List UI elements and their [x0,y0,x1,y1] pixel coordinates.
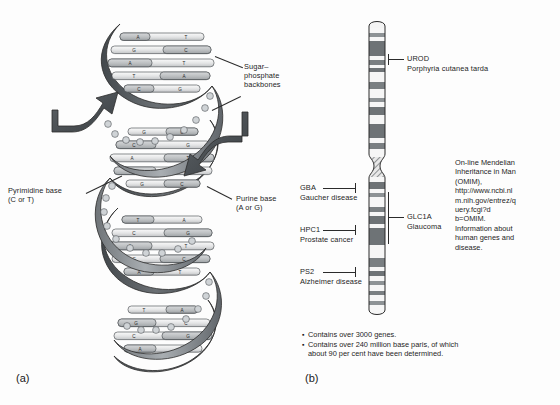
fact-text: Contains over 240 million base paris, of… [308,340,552,359]
leader-gba [323,188,356,189]
label-glc1a-gene: GLC1A [407,212,432,221]
svg-text:G: G [186,334,190,339]
label-pyrimidine-base: Pyrimidine base (C or T) [8,186,98,204]
svg-text:T: T [179,270,182,275]
svg-text:T: T [185,35,188,40]
svg-text:T: T [133,74,136,79]
panel-a-letter: (a) [16,372,29,384]
dna-base-pair-rungs [108,33,214,352]
omim-reference-note: On-line Mendelian Inheritance in Man (OM… [455,158,517,252]
svg-text:T: T [137,218,140,223]
fact-text: Contains over 3000 genes. [308,330,552,339]
label-urod-gene: UROD [407,54,429,63]
figure-root: AT GC AT TA CG GC CG AT TA GC TA CG AT G… [0,0,560,405]
svg-text:T: T [185,244,188,249]
svg-text:G: G [186,231,190,236]
svg-text:G: G [140,182,144,187]
list-item: ▪ Contains over 3000 genes. [302,330,552,339]
leader-hpc1 [323,230,356,231]
label-glc1a-disease: Glaucoma [407,222,441,231]
leader-glc1a [388,217,404,218]
label-hpc1-disease: Prostate cancer [300,235,353,244]
svg-text:T: T [183,61,186,66]
label-gba-disease: Gaucher disease [300,193,357,202]
label-gba-gene: GBA [300,183,316,192]
svg-text:G: G [186,143,190,148]
leader-urod [388,59,404,60]
dna-helix-panel: AT GC AT TA CG GC CG AT TA GC TA CG AT G… [0,0,300,405]
svg-text:G: G [134,321,138,326]
label-hpc1-gene: HPC1 [300,225,320,234]
svg-text:T: T [143,308,146,313]
leader-ps2 [323,272,356,273]
list-item: ▪ Contains over 240 million base paris, … [302,340,552,359]
chromosome-facts-list: ▪ Contains over 3000 genes. ▪ Contains o… [302,330,552,359]
svg-text:G: G [142,130,146,135]
svg-text:G: G [178,87,182,92]
svg-text:G: G [132,48,136,53]
label-ps2-gene: PS2 [300,267,314,276]
label-purine-base: Purine base (A or G) [236,194,300,212]
panel-b-letter: (b) [305,372,318,384]
chromosome-panel: UROD Porphyria cutanea tarda GLC1A Glauc… [300,0,560,405]
label-urod-disease: Porphyria cutanea tarda [407,64,488,73]
label-sugar-phosphate-backbones: Sugar– phosphate backbones [244,62,300,90]
label-ps2-disease: Alzheimer disease [300,277,362,286]
